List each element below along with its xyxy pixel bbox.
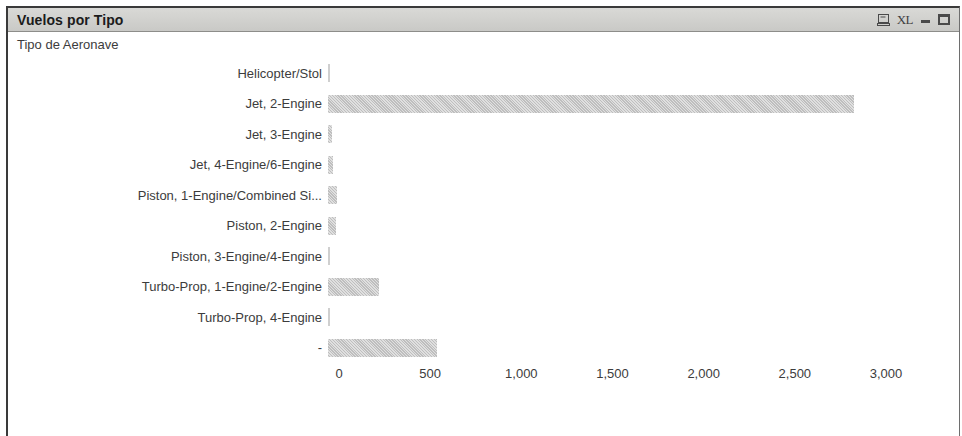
bar[interactable] xyxy=(328,217,336,235)
bar[interactable] xyxy=(328,308,330,326)
title-bar-actions: XL xyxy=(877,13,959,26)
bar-track xyxy=(328,333,959,364)
bar-track xyxy=(328,241,959,272)
bar-track xyxy=(328,272,959,303)
bar-category-label: Turbo-Prop, 4-Engine xyxy=(8,310,328,325)
x-axis-tick-label: 1,000 xyxy=(505,366,538,381)
excel-export-icon[interactable]: XL xyxy=(897,13,913,26)
chart-panel: Vuelos por Tipo XL Tipo de Aeronave Heli… xyxy=(6,6,960,436)
bar-category-label: Jet, 4-Engine/6-Engine xyxy=(8,157,328,172)
x-axis-tick-label: 2,000 xyxy=(687,366,720,381)
bar-track xyxy=(328,58,959,89)
bar-category-label: Piston, 3-Engine/4-Engine xyxy=(8,249,328,264)
bar[interactable] xyxy=(328,278,379,296)
x-axis-tick-label: 1,500 xyxy=(596,366,629,381)
bar-row[interactable]: Piston, 3-Engine/4-Engine xyxy=(8,241,959,272)
bar[interactable] xyxy=(328,186,337,204)
bar-row[interactable]: Jet, 4-Engine/6-Engine xyxy=(8,150,959,181)
maximize-button[interactable] xyxy=(938,14,950,25)
report-icon[interactable] xyxy=(877,14,890,26)
chart-plot-area: Helicopter/StolJet, 2-EngineJet, 3-Engin… xyxy=(8,58,959,363)
x-axis-tick-label: 3,000 xyxy=(870,366,903,381)
bar-chart: Helicopter/StolJet, 2-EngineJet, 3-Engin… xyxy=(8,58,959,428)
bar-category-label: Piston, 1-Engine/Combined Si... xyxy=(8,188,328,203)
bar-category-label: Turbo-Prop, 1-Engine/2-Engine xyxy=(8,279,328,294)
bar-track xyxy=(328,150,959,181)
bar[interactable] xyxy=(328,95,854,113)
bar-row[interactable]: Jet, 3-Engine xyxy=(8,119,959,150)
bar[interactable] xyxy=(328,339,437,357)
bar[interactable] xyxy=(328,156,333,174)
bar-row[interactable]: Jet, 2-Engine xyxy=(8,89,959,120)
bar-track xyxy=(328,119,959,150)
bar-track xyxy=(328,180,959,211)
bar[interactable] xyxy=(328,247,330,265)
bar-track xyxy=(328,89,959,120)
panel-title-bar: Vuelos por Tipo XL xyxy=(8,8,959,32)
x-axis-tick-label: 0 xyxy=(335,366,342,381)
bar-row[interactable]: - xyxy=(8,333,959,364)
bar-row[interactable]: Helicopter/Stol xyxy=(8,58,959,89)
x-axis: 05001,0001,5002,0002,5003,000 xyxy=(328,366,959,390)
bar-track xyxy=(328,211,959,242)
bar[interactable] xyxy=(328,64,330,82)
page-title: Vuelos por Tipo xyxy=(8,12,124,28)
x-axis-tick-label: 2,500 xyxy=(779,366,812,381)
minimize-button[interactable] xyxy=(920,14,931,25)
bar-category-label: Jet, 3-Engine xyxy=(8,127,328,142)
bar-row[interactable]: Piston, 1-Engine/Combined Si... xyxy=(8,180,959,211)
chart-subtitle: Tipo de Aeronave xyxy=(8,32,959,52)
bar-category-label: - xyxy=(8,340,328,355)
bar-row[interactable]: Piston, 2-Engine xyxy=(8,211,959,242)
bar-row[interactable]: Turbo-Prop, 4-Engine xyxy=(8,302,959,333)
bar-category-label: Jet, 2-Engine xyxy=(8,96,328,111)
bar[interactable] xyxy=(328,125,332,143)
bar-row[interactable]: Turbo-Prop, 1-Engine/2-Engine xyxy=(8,272,959,303)
x-axis-tick-label: 500 xyxy=(419,366,441,381)
bar-category-label: Helicopter/Stol xyxy=(8,66,328,81)
bar-track xyxy=(328,302,959,333)
bar-category-label: Piston, 2-Engine xyxy=(8,218,328,233)
